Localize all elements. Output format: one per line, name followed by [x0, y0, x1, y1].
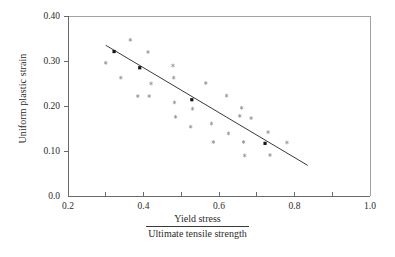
- data-point: [172, 76, 175, 80]
- y-axis-label: Uniform plastic strain: [14, 0, 32, 196]
- data-point: [242, 140, 245, 144]
- y-tick-label: 0.20: [43, 101, 60, 111]
- x-axis-label-numerator: Yield stress: [168, 213, 226, 226]
- data-point: [173, 101, 176, 105]
- data-point: [136, 94, 139, 98]
- trend-line-path: [106, 45, 308, 165]
- x-axis-label: Yield stress Ultimate tensile strength: [0, 213, 395, 241]
- data-point: [268, 153, 271, 157]
- data-point: [240, 106, 243, 110]
- data-point: [210, 122, 213, 126]
- data-point: [285, 141, 288, 145]
- data-point: [238, 114, 241, 118]
- plot-frame: [68, 16, 370, 196]
- data-point: [146, 50, 149, 54]
- data-point: [249, 116, 252, 120]
- y-axis-label-text: Uniform plastic strain: [18, 53, 29, 143]
- x-tick-label: 0.8: [289, 201, 301, 211]
- data-point: [119, 76, 122, 80]
- y-tick-label: 0.0: [48, 191, 60, 201]
- data-point: [104, 61, 107, 65]
- axis-tick-labels: 0.20.40.60.81.00.00.100.200.300.40: [43, 11, 376, 211]
- y-tick-label: 0.40: [43, 11, 60, 21]
- chart-figure: 0.20.40.60.81.00.00.100.200.300.40 Unifo…: [0, 0, 395, 257]
- fit-marker-point: [263, 142, 266, 145]
- data-point: [171, 64, 174, 68]
- trend-line: [106, 45, 308, 165]
- axis-ticks: [64, 16, 333, 196]
- data-point: [225, 94, 228, 98]
- data-point: [204, 81, 207, 85]
- scatter-points: [104, 38, 289, 157]
- fit-marker-points: [112, 50, 266, 145]
- data-point: [174, 115, 177, 119]
- data-point: [243, 154, 246, 158]
- fit-marker-point: [112, 50, 115, 53]
- x-axis-label-denominator: Ultimate tensile strength: [146, 226, 248, 241]
- data-point: [212, 140, 215, 144]
- x-tick-label: 0.2: [62, 201, 74, 211]
- fit-marker-point: [190, 98, 193, 101]
- y-tick-label: 0.10: [43, 146, 60, 156]
- x-axis-label-fraction: Yield stress Ultimate tensile strength: [146, 213, 248, 241]
- y-tick-label: 0.30: [43, 56, 60, 66]
- data-point: [191, 107, 194, 111]
- data-point: [129, 38, 132, 42]
- fit-marker-point: [138, 66, 141, 69]
- data-point: [149, 82, 152, 86]
- x-tick-label: 1.0: [364, 201, 376, 211]
- data-point: [189, 125, 192, 129]
- data-point: [227, 132, 230, 136]
- x-tick-label: 0.4: [138, 201, 150, 211]
- data-point: [266, 130, 269, 134]
- data-point: [148, 94, 151, 98]
- x-tick-label: 0.6: [213, 201, 225, 211]
